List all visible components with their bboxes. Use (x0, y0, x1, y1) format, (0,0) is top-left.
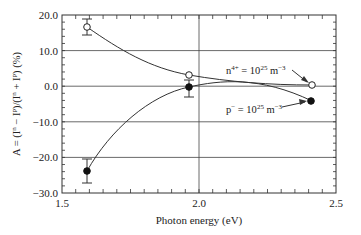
y-tick-label: 0.0 (44, 80, 58, 92)
annotation-n: n4+ = 1025 m−3 (226, 64, 309, 83)
arrow-head-icon (299, 99, 307, 105)
data-point (308, 98, 315, 105)
y-axis-label: A = (In − Ip)/(In + Ip) (%) (10, 52, 23, 156)
y-tick-label: 20.0 (39, 9, 59, 21)
data-point (84, 24, 91, 31)
annotation-p: p− = 1025 m−3 (226, 99, 307, 115)
data-point (84, 168, 91, 175)
error-bars (82, 19, 194, 183)
open-series-curve (87, 27, 312, 85)
data-point (309, 82, 316, 89)
x-tick-label: 1.5 (55, 197, 69, 209)
x-axis-label: Photon energy (eV) (156, 214, 243, 227)
y-tick-label: 10.0 (39, 45, 59, 57)
data-point (186, 84, 193, 91)
svg-text:n4+ = 1025 m−3: n4+ = 1025 m−3 (226, 64, 286, 76)
open-markers (84, 24, 316, 89)
y-tick-label: −10.0 (33, 116, 59, 128)
x-tick-label: 2.5 (329, 197, 343, 209)
y-tick-labels: 20.0 10.0 0.0 −10.0 −20.0 −30.0 (33, 9, 59, 199)
x-tick-label: 2.0 (192, 197, 206, 209)
data-point (186, 72, 193, 79)
x-tick-labels: 1.5 2.0 2.5 (55, 197, 343, 209)
asymmetry-chart: 20.0 10.0 0.0 −10.0 −20.0 −30.0 1.5 2.0 … (0, 0, 361, 235)
arrow-head-icon (301, 76, 309, 83)
svg-text:p− = 1025 m−3: p− = 1025 m−3 (226, 103, 283, 115)
y-tick-label: −20.0 (33, 151, 59, 163)
